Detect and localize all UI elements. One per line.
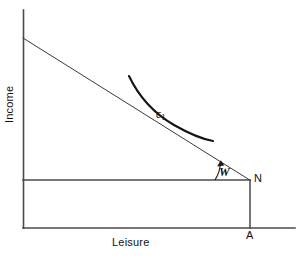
point-n-label: N xyxy=(254,173,262,184)
diagram-svg xyxy=(0,0,307,260)
figure-canvas: Income Leisure ϵ1 W N A xyxy=(0,0,307,260)
wage-rate-label: W xyxy=(219,166,230,178)
budget-constraint-line xyxy=(23,38,251,181)
point-a-label: A xyxy=(246,230,254,241)
epsilon-subscript: 1 xyxy=(161,112,166,122)
x-axis-label: Leisure xyxy=(112,237,149,248)
y-axis-label: Income xyxy=(2,68,16,140)
indifference-curve-label: ϵ1 xyxy=(156,108,166,122)
